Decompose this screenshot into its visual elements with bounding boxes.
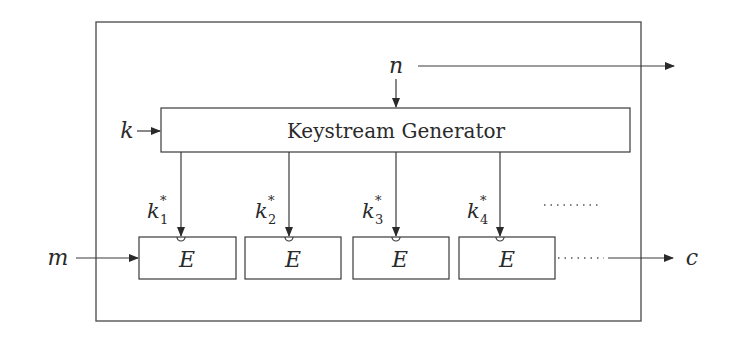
encryption-block-2: E bbox=[245, 237, 341, 279]
svg-text:4: 4 bbox=[480, 212, 488, 227]
svg-text:*: * bbox=[268, 193, 275, 208]
keystream-label-4: k * 4 bbox=[467, 193, 488, 227]
encryption-block-1: E bbox=[139, 237, 236, 279]
nonce-label: n bbox=[389, 53, 403, 78]
svg-text:*: * bbox=[480, 193, 487, 208]
svg-text:k: k bbox=[362, 199, 375, 223]
encryption-block-4: E bbox=[459, 237, 555, 279]
svg-text:*: * bbox=[160, 193, 167, 208]
keystream-generator: Keystream Generator bbox=[161, 108, 630, 152]
svg-text:E: E bbox=[178, 247, 195, 272]
svg-text:k: k bbox=[255, 199, 268, 223]
ciphertext-label: c bbox=[686, 245, 698, 270]
svg-text:1: 1 bbox=[160, 212, 168, 227]
svg-text:2: 2 bbox=[268, 212, 276, 227]
svg-text:k: k bbox=[147, 199, 160, 223]
keystream-generator-label: Keystream Generator bbox=[287, 119, 506, 143]
encryption-block-3: E bbox=[353, 237, 449, 279]
svg-text:E: E bbox=[391, 247, 408, 272]
keystream-label-2: k * 2 bbox=[255, 193, 276, 227]
keystream-label-1: k * 1 bbox=[147, 193, 168, 227]
svg-text:k: k bbox=[467, 199, 480, 223]
svg-text:E: E bbox=[284, 247, 301, 272]
stream-cipher-diagram: n k Keystream Generator k * 1 k * 2 k * … bbox=[0, 0, 734, 337]
keystream-label-3: k * 3 bbox=[362, 193, 383, 227]
svg-text:E: E bbox=[498, 247, 515, 272]
svg-text:*: * bbox=[375, 193, 382, 208]
key-label: k bbox=[120, 118, 133, 143]
message-label: m bbox=[48, 245, 69, 270]
svg-text:3: 3 bbox=[375, 212, 383, 227]
